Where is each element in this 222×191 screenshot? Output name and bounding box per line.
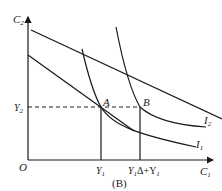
indifference-curve-diagram: C2 C1 O Y2 A B Y1 Y1Δ+Y1 I2 I1 (B) bbox=[0, 0, 222, 191]
x-axis-label: C1 bbox=[200, 165, 211, 179]
y2-label: Y2 bbox=[14, 102, 24, 115]
upper-budget-line bbox=[31, 30, 222, 119]
point-b-label: B bbox=[143, 96, 150, 108]
indifference-curve-i1 bbox=[82, 49, 196, 147]
origin-label: O bbox=[19, 161, 27, 173]
i2-label: I2 bbox=[203, 114, 212, 128]
y1-delta-label: Y1Δ+Y1 bbox=[128, 165, 160, 178]
lower-budget-line bbox=[28, 55, 134, 131]
point-a-label: A bbox=[102, 96, 110, 108]
y1-label: Y1 bbox=[96, 165, 105, 178]
indifference-curve-i2 bbox=[116, 27, 206, 127]
i1-label: I1 bbox=[195, 138, 203, 152]
figure-caption: (B) bbox=[112, 177, 127, 190]
y-axis-label: C2 bbox=[13, 13, 24, 27]
